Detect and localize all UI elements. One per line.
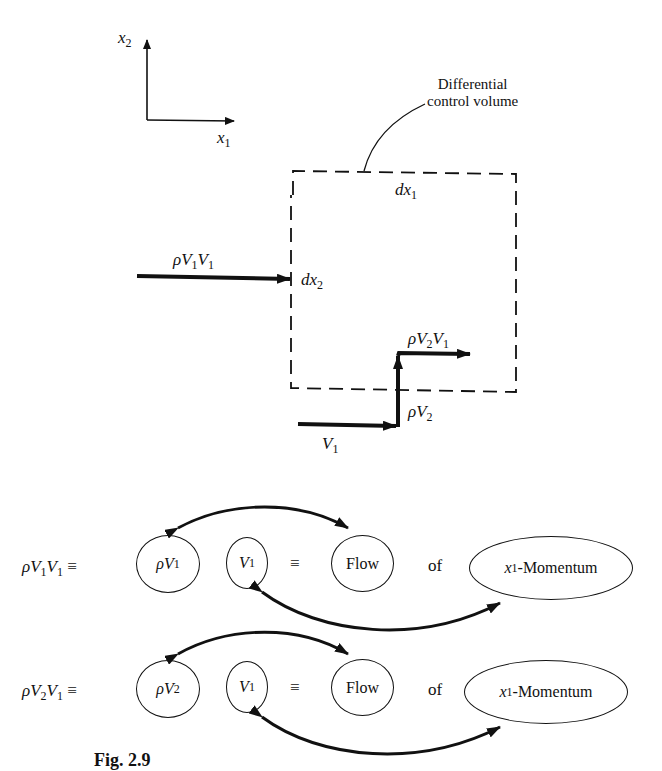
eq1-lhs: ρV1V1 ≡ — [22, 557, 77, 580]
eq1-bottom-curve — [262, 592, 500, 630]
axis-label-x1: x1 — [217, 128, 231, 151]
eq2-bottom-curve — [262, 717, 500, 754]
eq1-top-curve — [178, 507, 348, 528]
eq2-top-curve — [178, 632, 348, 654]
eq2-velocity-circle: V1 — [226, 661, 268, 713]
eq2-of: of — [428, 680, 442, 700]
dx1-label: dx1 — [395, 180, 417, 203]
eq1-mass-flux-circle: ρV1 — [136, 535, 200, 593]
eq2-equiv: ≡ — [290, 678, 300, 698]
axis-label-x2: x2 — [118, 28, 132, 51]
flux-arrow-left — [137, 276, 290, 279]
flux-arrow-top-right — [398, 353, 470, 356]
eq1-flow-circle: Flow — [331, 535, 394, 592]
figure-caption: Fig. 2.9 — [94, 750, 151, 771]
velocity-arrow-v1 — [298, 424, 396, 426]
annotation-leader — [364, 104, 425, 171]
eq2-mass-flux-circle: ρV2 — [136, 660, 200, 718]
coordinate-axes — [147, 40, 234, 121]
eq2-momentum-ellipse: x1-Momentum — [464, 660, 628, 724]
velocity-label-v1: V1 — [322, 434, 338, 457]
eq2-lhs: ρV2V1 ≡ — [22, 681, 77, 704]
flux-label-vertical: ρV2 — [408, 402, 433, 425]
control-volume-annotation: Differential control volume — [427, 76, 518, 110]
flux-label-top-right: ρV2V1 — [408, 329, 449, 352]
dx2-label: dx2 — [301, 270, 323, 293]
eq1-momentum-ellipse: x1-Momentum — [469, 536, 633, 600]
flux-label-left: ρV1V1 — [173, 250, 214, 273]
eq1-of: of — [428, 556, 442, 576]
eq1-velocity-circle: V1 — [226, 537, 268, 589]
eq2-flow-circle: Flow — [331, 659, 394, 716]
eq1-equiv: ≡ — [290, 554, 300, 574]
control-volume-box — [291, 171, 516, 392]
